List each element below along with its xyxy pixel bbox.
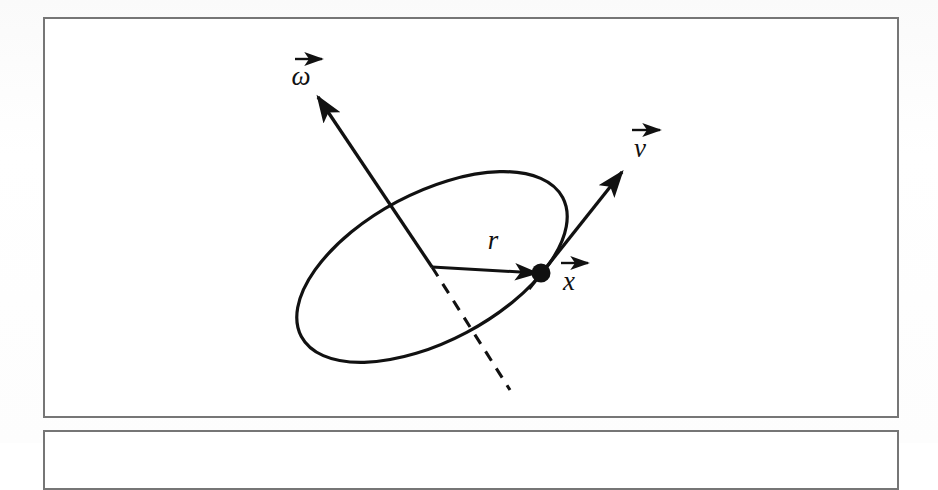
figure-frame-next — [43, 430, 899, 490]
r-label: r — [488, 225, 499, 255]
rotation-diagram: ω v x r — [43, 17, 899, 418]
omega-arrow — [318, 97, 432, 267]
v-label-group: v — [632, 130, 660, 163]
point-dot — [532, 264, 551, 283]
x-label: x — [562, 266, 575, 296]
r-arrow — [432, 267, 537, 273]
omega-label: ω — [291, 61, 310, 91]
v-label: v — [634, 133, 646, 163]
omega-label-group: ω — [291, 59, 322, 91]
x-label-group: x — [561, 263, 588, 296]
